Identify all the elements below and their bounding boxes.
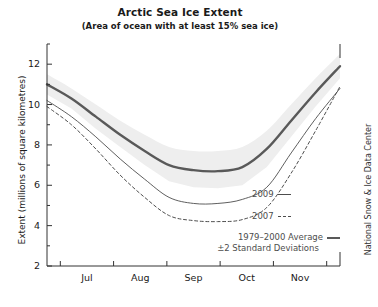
y-tick-label: 10 <box>18 99 40 110</box>
legend-label-2007: 2007 <box>252 211 274 221</box>
y-tick-label: 6 <box>18 179 40 190</box>
std-deviation-band <box>47 54 340 188</box>
legend-swatch-average <box>327 237 340 239</box>
y-tick-label: 2 <box>18 260 40 271</box>
x-tick-label: Aug <box>120 272 160 283</box>
y-tick-label: 8 <box>18 139 40 150</box>
chart-container: Arctic Sea Ice Extent (Area of ocean wit… <box>0 0 378 307</box>
y-tick-label: 4 <box>18 220 40 231</box>
legend-item-2007: 2007 <box>252 211 291 221</box>
x-tick-label: Jul <box>67 272 107 283</box>
legend-swatch-2009 <box>278 194 291 195</box>
plot-area <box>0 0 378 307</box>
y-tick-label: 12 <box>18 58 40 69</box>
band-fill <box>47 54 340 188</box>
x-tick-label: Oct <box>227 272 267 283</box>
series-lines <box>47 66 340 221</box>
legend-item-average: 1979–2000 Average <box>196 232 340 242</box>
x-tick-label: Sep <box>174 272 214 283</box>
legend-item-2009: 2009 <box>252 189 291 199</box>
legend-swatch-2007 <box>278 216 291 217</box>
legend-item-stddev: ±2 Standard Deviations <box>196 243 340 253</box>
x-tick-label: Nov <box>280 272 320 283</box>
legend-label-2009: 2009 <box>252 189 274 199</box>
legend-label-average: 1979–2000 Average <box>238 232 323 242</box>
